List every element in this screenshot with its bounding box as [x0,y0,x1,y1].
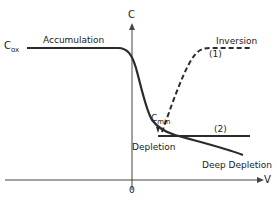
y-axis-label: C [128,9,135,20]
cox-label: Cox [4,40,19,54]
curve-2-label: (2) [214,124,227,134]
depletion-label: Depletion [132,142,175,152]
deep-depletion-curve [27,48,243,155]
inversion-label: Inversion [216,36,257,46]
cv-diagram [0,0,277,200]
curve-1-dashed-line [162,48,252,132]
cmin-label: Cmin [151,113,171,126]
y-axis-arrow-icon [129,23,135,30]
origin-label: 0 [129,185,135,195]
accumulation-label: Accumulation [43,35,104,45]
curve-1-label: (1) [209,49,222,59]
deep-depletion-label: Deep Depletion [202,160,272,170]
x-axis-label: V [264,174,271,185]
cmin-arrow-icon [156,127,160,133]
x-axis-arrow-icon [257,177,264,183]
